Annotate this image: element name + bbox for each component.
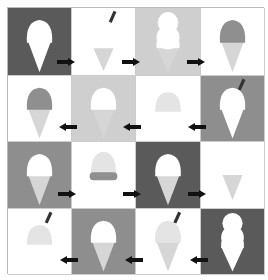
ice-cream-icon	[8, 209, 71, 274]
cell-r3-c4	[201, 142, 265, 209]
cell-r3-c1	[8, 142, 72, 209]
arrow-right-icon	[58, 190, 76, 198]
arrow-right-icon	[123, 190, 141, 198]
ice-cream-icon	[136, 209, 200, 274]
arrow-left-icon	[123, 123, 141, 131]
arrow-right-icon	[122, 58, 140, 66]
ice-cream-icon	[8, 76, 71, 141]
cell-r3-c3	[136, 142, 201, 209]
ice-cream-icon	[201, 76, 264, 141]
cell-r2-c3	[136, 76, 201, 142]
ice-cream-icon	[136, 142, 200, 208]
arrow-right-icon	[57, 58, 75, 66]
cell-r4-c2	[72, 209, 136, 275]
cell-r2-c2	[72, 76, 136, 142]
ice-cream-icon	[72, 76, 135, 141]
cell-r3-c2	[72, 142, 136, 209]
ice-cream-icon	[201, 209, 264, 274]
arrow-left-icon	[190, 256, 208, 264]
ice-cream-icon	[8, 142, 71, 208]
cell-r4-c4	[201, 209, 265, 275]
arrow-right-icon	[187, 58, 205, 66]
cell-r4-c1	[8, 209, 72, 275]
cell-r4-c3	[136, 209, 201, 275]
ice-cream-icon	[72, 142, 135, 208]
ice-cream-icon	[201, 142, 264, 208]
cell-r1-c4	[201, 8, 265, 76]
cell-r2-c1	[8, 76, 72, 142]
ice-cream-icon	[72, 209, 135, 274]
arrow-left-icon	[60, 256, 78, 264]
arrow-left-icon	[125, 256, 143, 264]
ice-cream-grid	[7, 7, 264, 274]
ice-cream-icon	[136, 76, 200, 141]
arrow-right-icon	[188, 190, 206, 198]
cell-r2-c4	[201, 76, 265, 142]
ice-cream-icon	[201, 8, 264, 75]
arrow-left-icon	[188, 123, 206, 131]
arrow-left-icon	[59, 123, 77, 131]
